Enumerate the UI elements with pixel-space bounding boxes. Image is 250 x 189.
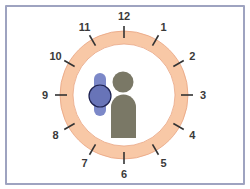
hour-label: 5 xyxy=(160,157,166,169)
clock-diagram: 121234567891011 xyxy=(0,0,250,189)
hour-label: 2 xyxy=(189,50,195,62)
hour-label: 7 xyxy=(81,157,87,169)
person-icon xyxy=(111,72,136,139)
hour-label: 9 xyxy=(42,89,48,101)
hour-label: 3 xyxy=(200,89,206,101)
hour-label: 8 xyxy=(53,129,59,141)
hour-label: 4 xyxy=(189,129,196,141)
hour-label: 12 xyxy=(118,10,130,22)
hour-label: 10 xyxy=(49,50,61,62)
wristwatch-icon xyxy=(89,73,111,116)
hour-label: 6 xyxy=(121,168,127,180)
hour-label: 1 xyxy=(160,21,166,33)
hour-label: 11 xyxy=(79,21,91,33)
